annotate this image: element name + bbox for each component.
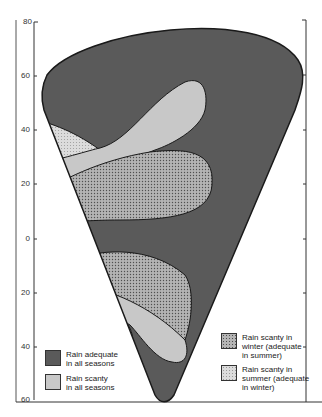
legend-label: Rain scanty in all seasons	[66, 374, 114, 392]
tick-label-60s: 60	[8, 395, 30, 404]
tick-label-20s: 20	[8, 288, 30, 297]
tick-label-60n: 60	[8, 71, 30, 80]
legend-swatch-dark	[45, 350, 61, 366]
legend-swatch-light	[45, 374, 61, 390]
legend-swatch-dense-stipple	[221, 333, 237, 349]
tick-label-40s: 40	[8, 342, 30, 351]
legend-item-scanty-winter: Rain scanty in winter (adequate in summe…	[221, 333, 302, 360]
legend-label: Rain scanty in winter (adequate in summe…	[242, 333, 302, 360]
legend-item-scanty-summer: Rain scanty in summer (adequate in winte…	[221, 365, 309, 392]
region-scanty-winter-north	[30, 151, 212, 225]
tick-label-40n: 40	[8, 125, 30, 134]
tick-label-80n: 80	[10, 17, 32, 26]
legend-swatch-light-stipple	[221, 365, 237, 381]
tick-label-20n: 20	[8, 179, 30, 188]
tick-label-0: 0	[8, 234, 30, 243]
legend-item-scanty-all: Rain scanty in all seasons	[45, 374, 114, 392]
legend-label: Rain adequate in all seasons	[66, 350, 118, 368]
legend-item-adequate-all: Rain adequate in all seasons	[45, 350, 118, 368]
legend-label: Rain scanty in summer (adequate in winte…	[242, 365, 309, 392]
